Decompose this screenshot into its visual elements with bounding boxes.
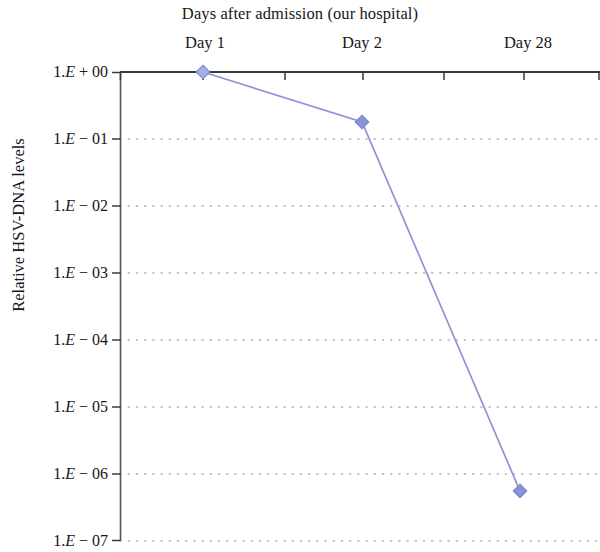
y-axis-ticks — [112, 73, 120, 541]
marker-diamond[interactable] — [513, 484, 527, 498]
marker-diamond[interactable] — [196, 65, 210, 79]
series-line — [203, 72, 520, 491]
marker-diamond[interactable] — [355, 115, 369, 129]
axis-lines — [120, 72, 600, 541]
data-point-day-28[interactable] — [513, 484, 527, 498]
plot-area — [0, 0, 600, 552]
x-axis-ticks — [121, 72, 600, 80]
data-point-day-2[interactable] — [355, 115, 369, 129]
data-point-day-1[interactable] — [196, 65, 210, 79]
gridlines — [120, 139, 600, 541]
data-series-hsv-dna — [196, 65, 527, 498]
chart-figure: Days after admission (our hospital) Day … — [0, 0, 600, 552]
